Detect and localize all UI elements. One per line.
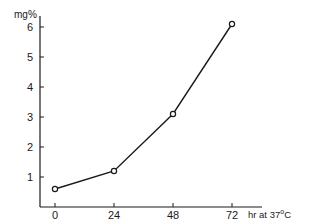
y-ticks: 123456 [27,21,44,183]
data-point-marker [111,168,116,173]
y-tick-label: 2 [27,141,33,153]
y-tick-label: 4 [27,81,33,93]
data-markers [52,21,234,191]
y-tick-label: 3 [27,111,33,123]
line-chart: 123456 0244872 mg% hr at 37oC [0,0,314,222]
x-tick-label: 24 [108,209,120,221]
x-ticks: 0244872 [52,203,238,221]
data-point-marker [229,21,234,26]
y-axis-label: mg% [14,9,37,20]
y-tick-label: 6 [27,21,33,33]
data-line [55,24,232,189]
y-tick-label: 5 [27,51,33,63]
axes [40,16,262,207]
data-point-marker [52,186,57,191]
x-tick-label: 48 [167,209,179,221]
y-tick-label: 1 [27,171,33,183]
data-point-marker [170,111,175,116]
x-tick-label: 72 [226,209,238,221]
x-axis-label: hr at 37oC [248,208,291,220]
x-tick-label: 0 [52,209,58,221]
